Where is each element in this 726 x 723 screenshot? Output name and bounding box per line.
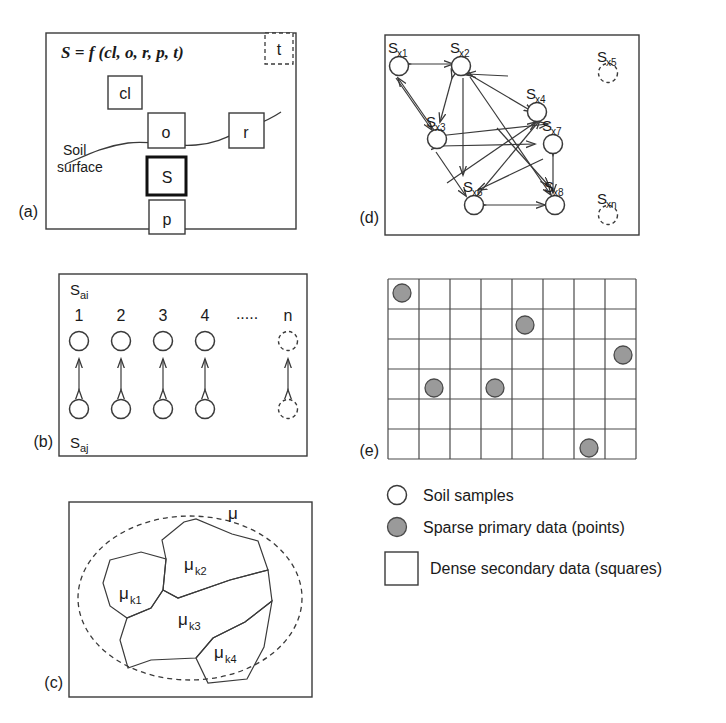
panel-b-top-circle-3 <box>154 332 173 351</box>
panel-e-point-r4c2 <box>425 379 443 397</box>
box-o-label: o <box>162 124 171 141</box>
panel-a: (a) S = f (cl, o, r, p, t) t cl o r S p … <box>18 33 296 234</box>
panel-b-bottom-circle-n <box>279 400 298 419</box>
polygon-mu-k2 <box>162 519 268 598</box>
panel-b-bottom-circle-2 <box>112 400 131 419</box>
panel-b-col-ellipsis: ..... <box>236 305 258 322</box>
node-sx6 <box>465 196 484 215</box>
panel-c: (c) μ μ k1 μ k2 μ k3 μ k4 <box>44 502 312 697</box>
panel-b-col-4: 4 <box>201 307 210 324</box>
legend-label-soil-samples: Soil samples <box>423 487 514 504</box>
polygon-mu-k4 <box>196 601 272 683</box>
polygon-mu-k1 <box>103 552 166 618</box>
panel-b-col-2: 2 <box>117 307 126 324</box>
panel-c-label: (c) <box>44 674 63 691</box>
polygon-mu-k3-sub: k3 <box>189 620 201 632</box>
panel-b-bottom-symbol: S <box>70 434 80 451</box>
legend: Soil samples Sparse primary data (points… <box>385 486 662 586</box>
node-sx7 <box>544 135 563 154</box>
polygon-mu-k4-label: μ <box>214 643 224 662</box>
polygon-mu-k3-label: μ <box>178 610 188 629</box>
panel-b-frame <box>59 274 307 456</box>
panel-a-label: (a) <box>18 203 38 220</box>
polygon-mu-k1-label: μ <box>119 584 129 603</box>
box-cl-label: cl <box>119 85 131 102</box>
legend-label-dense-secondary: Dense secondary data (squares) <box>430 560 662 577</box>
node-sx7-sub: x7 <box>551 126 562 137</box>
panel-b-col-n: n <box>284 307 293 324</box>
node-sxn-sub: xn <box>606 199 617 210</box>
node-sx1-sub: x1 <box>397 48 408 59</box>
box-s-label: S <box>162 169 173 186</box>
map-unit-label: μ <box>228 504 238 523</box>
panel-b: (b) S ai S aj 1 2 3 4 ..... n <box>33 274 307 456</box>
panel-b-col-1: 1 <box>75 307 84 324</box>
polygon-mu-k2-label: μ <box>184 555 194 574</box>
panel-b-bottom-circle-3 <box>154 400 173 419</box>
panel-c-frame <box>69 502 312 697</box>
panel-e-label: (e) <box>359 442 379 459</box>
panel-b-top-circle-2 <box>112 332 131 351</box>
panel-d: (d) S x1 S x2 S x3 <box>359 35 639 235</box>
node-sx4-sub: x4 <box>535 94 546 105</box>
figure-root: (a) S = f (cl, o, r, p, t) t cl o r S p … <box>0 0 726 723</box>
soil-surface-label-line1: Soil <box>63 142 86 158</box>
box-r-label: r <box>243 124 249 141</box>
panel-e-point-r1c1 <box>393 284 411 302</box>
legend-open-square-icon <box>385 552 418 585</box>
panel-e: (e) <box>359 279 636 459</box>
panel-b-top-circle-1 <box>70 332 89 351</box>
panel-b-top-symbol: S <box>70 281 80 298</box>
panel-e-point-r4c4 <box>486 379 504 397</box>
polygon-mu-k4-sub: k4 <box>225 653 237 665</box>
legend-filled-circle-icon <box>388 518 407 537</box>
panel-b-top-subscript: ai <box>80 289 89 301</box>
panel-b-bottom-subscript: aj <box>80 442 89 454</box>
panel-b-bottom-circle-4 <box>196 400 215 419</box>
panel-b-col-3: 3 <box>159 307 168 324</box>
node-sx2 <box>452 57 471 76</box>
panel-e-grid <box>388 279 636 459</box>
panel-e-point-r2c5 <box>516 316 534 334</box>
panel-e-point-r6c7 <box>580 439 598 457</box>
panel-b-top-circle-4 <box>196 332 215 351</box>
panel-e-point-r3c8 <box>614 346 632 364</box>
node-sx8-sub: x8 <box>553 187 564 198</box>
node-sx2-sub: x2 <box>459 48 470 59</box>
panel-b-label: (b) <box>33 433 53 450</box>
node-sx5-sub: x5 <box>606 57 617 68</box>
panel-a-equation: S = f (cl, o, r, p, t) <box>61 43 184 62</box>
panel-b-bottom-circle-1 <box>70 400 89 419</box>
node-sx6-sub: x6 <box>472 187 483 198</box>
box-t-label: t <box>277 41 282 58</box>
node-sx8 <box>546 196 565 215</box>
node-sx1 <box>390 57 409 76</box>
map-unit-boundary <box>78 516 302 680</box>
panel-d-label: (d) <box>359 209 379 226</box>
soil-surface-label-line2: surface <box>57 159 103 175</box>
legend-label-sparse-primary: Sparse primary data (points) <box>423 519 625 536</box>
box-p-label: p <box>163 211 172 228</box>
polygon-mu-k1-sub: k1 <box>130 594 142 606</box>
panel-b-top-circle-n <box>279 332 298 351</box>
node-sx3-sub: x3 <box>435 122 446 133</box>
polygon-mu-k2-sub: k2 <box>195 565 207 577</box>
legend-open-circle-icon <box>388 486 407 505</box>
